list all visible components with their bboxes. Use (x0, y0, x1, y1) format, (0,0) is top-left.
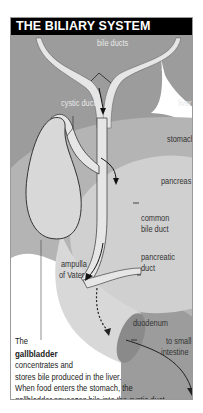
label-common-bile-duct-2: bile duct (141, 224, 168, 235)
label-ampulla-2: of Vater (59, 270, 84, 281)
caption-line-1: The (15, 336, 167, 348)
caption-line-3: concentrates and (15, 360, 167, 372)
label-bile-ducts: bile ducts (97, 38, 128, 49)
label-duodenum: duodenum (133, 318, 168, 329)
label-pancreatic-duct-2: duct (141, 263, 155, 274)
biliary-diagram-frame: THE BILIARY SYSTEM (10, 17, 193, 400)
label-pancreatic-duct-1: pancreatic (141, 252, 175, 263)
label-to-small-1: to small (166, 336, 191, 347)
label-cystic-duct: cystic duct (61, 98, 95, 109)
caption-line-4: stores bile produced in the liver. (15, 372, 167, 384)
diagram-title: THE BILIARY SYSTEM (11, 18, 192, 35)
label-ampulla-1: ampulla (61, 259, 87, 270)
label-common-bile-duct-1: common (141, 213, 169, 224)
label-stomach: stomach (167, 134, 193, 145)
label-pancreas: pancreas (161, 176, 191, 187)
caption-gallbladder-bold: gallbladder (15, 348, 58, 359)
label-liver: liver (178, 98, 192, 109)
caption-line-5: When food enters the stomach, the (15, 383, 167, 395)
caption-line-6: gallbladder squeezes bile into the cysti… (15, 395, 167, 401)
gallbladder-caption: The gallbladder concentrates and stores … (15, 336, 167, 400)
